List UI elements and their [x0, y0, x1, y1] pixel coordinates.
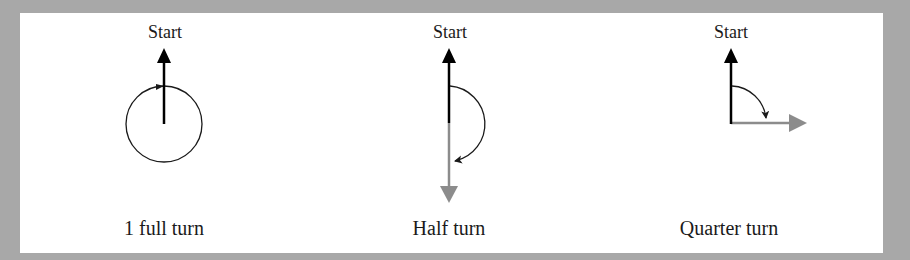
quarter-turn-caption: Quarter turn: [680, 218, 778, 238]
half-turn-start-label: Start: [433, 23, 467, 41]
full-turn-figure: [126, 48, 202, 162]
quarter-turn-end-arrowhead-icon: [789, 114, 807, 132]
half-turn-start-arrowhead-icon: [442, 48, 456, 63]
half-turn-end-arrowhead-icon: [440, 186, 458, 203]
full-turn-start-label: Start: [148, 23, 182, 41]
full-turn-start-arrowhead-icon: [157, 48, 171, 63]
quarter-turn-arc: [732, 86, 766, 118]
quarter-turn-figure: [724, 48, 807, 132]
quarter-turn-start-label: Start: [714, 23, 748, 41]
half-turn-figure: [440, 48, 485, 203]
quarter-turn-start-arrowhead-icon: [724, 48, 738, 63]
half-turn-arc: [450, 86, 485, 161]
half-turn-caption: Half turn: [413, 218, 486, 238]
full-turn-caption: 1 full turn: [124, 218, 204, 238]
